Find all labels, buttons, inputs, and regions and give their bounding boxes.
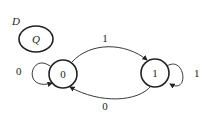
self-loop-1-label: 1 — [194, 67, 200, 79]
transition-0-to-1-arrow — [72, 47, 147, 62]
transition-0-to-1-label: 1 — [102, 32, 108, 44]
state-0-label: 0 — [60, 68, 66, 80]
legend-state-label: Q — [32, 33, 40, 45]
state-1-label: 1 — [152, 67, 158, 79]
legend-input-label: D — [11, 15, 20, 27]
transition-1-to-0-label: 0 — [102, 100, 108, 112]
transition-1-to-0-arrow — [70, 86, 151, 99]
state-diagram: D Q 0 1 0 1 1 0 — [0, 0, 210, 115]
self-loop-0-label: 0 — [16, 65, 22, 77]
